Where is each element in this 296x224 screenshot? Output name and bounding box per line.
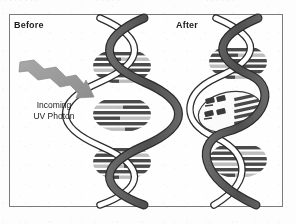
panel-label-after: After	[176, 20, 198, 30]
photon-annotation: Incoming UV Photon	[17, 100, 91, 121]
base-pairs-before-middle	[93, 100, 151, 131]
figure-canvas: · · · · · · · · · · · · · · · · · ·	[0, 0, 296, 224]
panel-label-before: Before	[14, 20, 44, 30]
photon-annotation-line-1: Incoming	[37, 100, 72, 110]
dna-helix-after	[190, 18, 268, 205]
photon-annotation-line-2: UV Photon	[17, 111, 91, 122]
uv-photon-arrow	[19, 60, 94, 98]
